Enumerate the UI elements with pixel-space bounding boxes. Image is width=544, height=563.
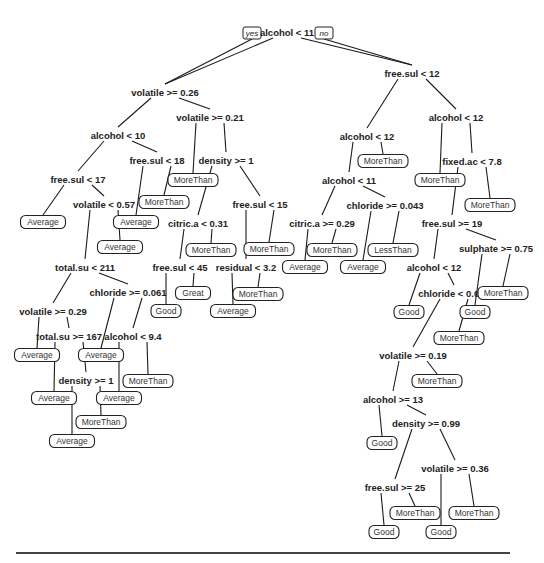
split-node-label: volatile >= 0.36 <box>421 463 489 474</box>
split-node-label: free.sul < 12 <box>384 68 439 79</box>
leaf-label: Average <box>21 350 53 360</box>
tree-edge <box>301 38 412 65</box>
split-node-label: chloride >= 0.043 <box>346 200 423 211</box>
tree-edge <box>381 142 383 154</box>
leaf-node: Good <box>460 306 490 319</box>
leaf-node: Average <box>32 392 77 405</box>
leaf-label: Average <box>27 217 59 227</box>
leaf-node: MoreThan <box>390 507 440 520</box>
leaf-node: MoreThan <box>76 416 126 429</box>
root-edge <box>324 39 412 65</box>
split-node-label: sulphate >= 0.75 <box>459 243 534 254</box>
tree-edge <box>165 38 273 84</box>
leaf-node: MoreThan <box>123 375 173 388</box>
tree-edge <box>393 361 399 391</box>
leaf-node: MoreThan <box>478 287 528 300</box>
leaf-node: Good <box>426 526 456 539</box>
tree-edge <box>232 273 233 304</box>
tree-edge <box>193 123 196 173</box>
tree-edge <box>269 210 274 242</box>
decision-tree: yes no alcohol < 11volatile >= 0.26free.… <box>0 0 544 563</box>
tree-edge <box>409 493 415 506</box>
leaf-node: Average <box>211 305 256 318</box>
leaf-label: Great <box>182 288 204 298</box>
leaf-label: MoreThan <box>239 289 278 299</box>
tree-edge <box>211 229 212 243</box>
split-node-label: chloride >= 0.061 <box>89 287 167 298</box>
leaf-node: MoreThan <box>412 375 462 388</box>
leaf-node: Average <box>114 216 159 229</box>
leaf-label: MoreThan <box>364 156 403 166</box>
split-node-label: free.sul >= 19 <box>422 218 483 229</box>
bottom-rule <box>16 552 510 554</box>
tree-edge <box>180 229 184 259</box>
leaf-node: Average <box>15 349 60 362</box>
leaf-label: Good <box>374 527 395 537</box>
leaf-node: Average <box>98 241 143 254</box>
tree-edge <box>427 361 437 374</box>
tree-edge <box>381 493 384 525</box>
leaf-node: MoreThan <box>139 196 189 209</box>
leaf-label: MoreThan <box>440 333 479 343</box>
leaf-node: MoreThan <box>168 174 218 187</box>
tree-edge <box>440 429 455 460</box>
leaf-label: Average <box>347 262 379 272</box>
tree-edge <box>407 405 426 415</box>
leaf-label: Good <box>465 307 486 317</box>
tree-edge <box>434 229 438 259</box>
tree-edge <box>486 167 490 198</box>
tree-edge <box>92 185 104 196</box>
tree-edge <box>367 79 398 128</box>
no-label: no <box>320 29 329 38</box>
leaf-node: MoreThan <box>415 174 465 187</box>
tree-edge <box>395 429 412 479</box>
leaf-node: MoreThan <box>358 155 408 168</box>
leaf-node: Good <box>369 526 399 539</box>
leaf-label: MoreThan <box>192 245 231 255</box>
tree-edge <box>363 186 385 197</box>
split-node-label: citric.a < 0.31 <box>168 218 229 229</box>
leaf-label: Average <box>38 393 70 403</box>
leaf-node: Great <box>176 287 211 300</box>
leaf-node: Good <box>367 437 397 450</box>
split-node-label: volatile >= 0.26 <box>131 87 199 98</box>
tree-edge <box>85 210 90 259</box>
leaf-label: Average <box>120 217 152 227</box>
split-node-label: density >= 0.99 <box>392 418 460 429</box>
leaf-label: MoreThan <box>421 175 460 185</box>
tree-edge <box>240 166 260 196</box>
leaf-label: Average <box>289 262 321 272</box>
tree-edge <box>43 185 64 215</box>
leaf-label: Average <box>85 350 117 360</box>
split-node-label: free.sul < 45 <box>152 262 208 273</box>
leaf-label: MoreThan <box>174 175 213 185</box>
split-node-label: citric.a >= 0.29 <box>289 218 355 229</box>
leaf-node: Good <box>151 305 181 318</box>
leaf-node: Average <box>50 435 95 448</box>
leaf-node: MoreThan <box>434 332 484 345</box>
leaf-label: Good <box>399 307 420 317</box>
leaf-label: LessThan <box>374 245 412 255</box>
split-node-label: volatile >= 0.29 <box>19 306 87 317</box>
leaf-node: MoreThan <box>186 244 236 257</box>
tree-edge <box>53 273 71 303</box>
leaf-label: MoreThan <box>396 508 435 518</box>
tree-edge <box>99 273 128 284</box>
leaf-label: Average <box>103 393 135 403</box>
tree-edge <box>470 123 472 153</box>
tree-edge <box>147 342 148 374</box>
split-node-label: free.sul < 15 <box>232 199 288 210</box>
split-node-label: free.sul < 18 <box>129 155 184 166</box>
leaf-label: MoreThan <box>418 376 457 386</box>
leaf-node: Good <box>394 306 424 319</box>
leaf-label: Average <box>104 242 136 252</box>
tree-edge <box>179 98 210 109</box>
leaf-label: MoreThan <box>455 508 494 518</box>
split-node-label: alcohol < 10 <box>91 130 146 141</box>
leaf-label: MoreThan <box>145 197 184 207</box>
tree-edge <box>426 79 456 109</box>
split-node-label: alcohol < 11 <box>322 175 377 186</box>
tree-edge <box>133 298 142 328</box>
leaf-node: Average <box>79 349 124 362</box>
split-node-label: density >= 1 <box>199 155 255 166</box>
